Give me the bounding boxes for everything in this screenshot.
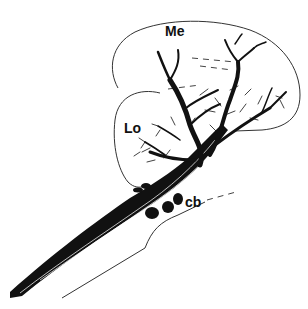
medulla-outline bbox=[112, 21, 300, 131]
cell-body bbox=[173, 193, 183, 205]
dendrite-branch bbox=[254, 42, 266, 48]
label-medulla: Me bbox=[165, 23, 185, 39]
cb-dashed-line bbox=[207, 192, 236, 200]
tract-streak bbox=[28, 206, 150, 292]
lobula-branch bbox=[158, 126, 180, 140]
neuron-figure: Me Lo cb bbox=[0, 0, 308, 309]
dendrite-branch bbox=[238, 48, 254, 62]
dendrite-branch bbox=[270, 92, 286, 108]
dendrite-branch bbox=[190, 104, 220, 125]
label-cell-bodies: cb bbox=[185, 194, 201, 210]
medulla-layer-dash-2 bbox=[200, 66, 232, 70]
dendrite-branch bbox=[235, 34, 242, 44]
label-lobula: Lo bbox=[124, 120, 141, 136]
dendrite-branch bbox=[170, 50, 179, 80]
cell-body bbox=[145, 207, 159, 219]
cell-body bbox=[133, 188, 143, 193]
lobula-outline bbox=[114, 91, 160, 187]
dendrite-branch bbox=[186, 90, 218, 108]
dendrite-branch bbox=[158, 52, 170, 80]
cell-body bbox=[162, 201, 174, 213]
cell-body bbox=[141, 183, 151, 189]
medulla-layer-dash-1 bbox=[192, 58, 235, 62]
dendrite-trunk bbox=[150, 152, 195, 160]
fiber-tract bbox=[10, 124, 228, 298]
